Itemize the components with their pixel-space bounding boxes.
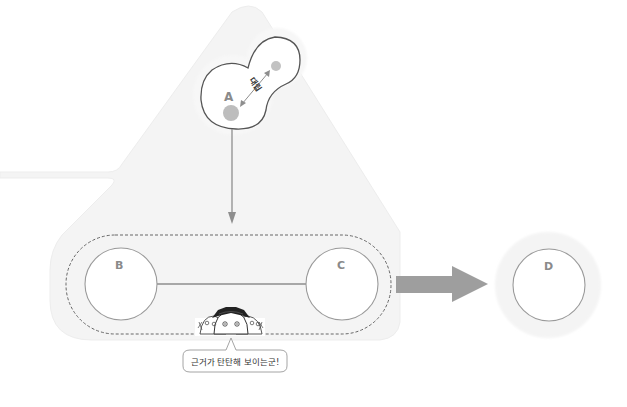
node-b: B (85, 248, 157, 320)
svg-text:근거가 탄탄해 보이는군!: 근거가 탄탄해 보이는군! (191, 357, 280, 367)
dot-small (271, 61, 281, 71)
svg-text:C: C (337, 259, 345, 272)
dot-a (223, 105, 239, 121)
node-d: D (495, 232, 601, 338)
big-arrow-icon (396, 266, 488, 302)
svg-text:B: B (115, 259, 123, 272)
speech-bubble: 근거가 탄탄해 보이는군! (183, 338, 287, 372)
argument-diagram: A 대립 B C D (0, 0, 627, 407)
node-c: C (306, 248, 378, 320)
svg-text:D: D (544, 260, 553, 273)
label-a: A (224, 90, 234, 104)
